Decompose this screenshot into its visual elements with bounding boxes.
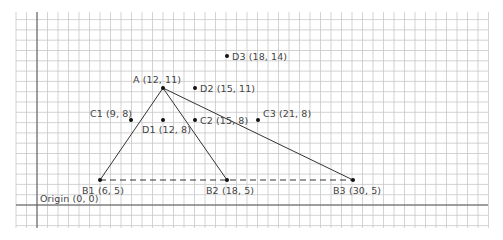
point-c2 <box>193 118 197 122</box>
point-b2 <box>225 178 229 182</box>
point-label-c1: C1 (9, 8) <box>90 108 132 119</box>
point-label-b2: B2 (18, 5) <box>206 185 254 196</box>
point-label-c2: C2 (15, 8) <box>200 115 248 126</box>
point-d2 <box>193 86 197 90</box>
point-label-a: A (12, 11) <box>133 74 181 85</box>
point-a <box>161 86 165 90</box>
point-d3 <box>225 54 229 58</box>
point-label-d2: D2 (15, 11) <box>200 83 255 94</box>
point-label-c3: C3 (21, 8) <box>263 108 311 119</box>
point-b1 <box>98 178 102 182</box>
point-label-b3: B3 (30, 5) <box>333 185 381 196</box>
point-label-d3: D3 (18, 14) <box>232 51 287 62</box>
origin-label: Origin (0, 0) <box>40 193 99 204</box>
point-c3 <box>256 118 260 122</box>
point-b3 <box>351 178 355 182</box>
point-d1 <box>161 118 165 122</box>
point-label-d1: D1 (12, 8) <box>142 124 191 135</box>
